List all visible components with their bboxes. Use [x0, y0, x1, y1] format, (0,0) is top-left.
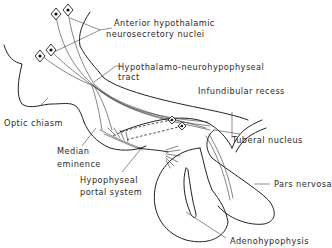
infundibular-stalk-upper [120, 118, 232, 148]
leader-adenohypophysis [186, 212, 226, 238]
portal-vessels [138, 148, 168, 152]
label-optic-chiasm: Optic chiasm [4, 118, 63, 128]
neuron-cluster-upper [51, 4, 73, 20]
label-anterior-nuclei-1: Anterior hypothalamic [114, 18, 215, 28]
label-median-eminence-2: eminence [57, 159, 101, 169]
label-portal-system-2: portal system [80, 187, 142, 197]
hypothalamus-pituitary-diagram: Anterior hypothalamic neurosecretory nuc… [0, 0, 332, 248]
leader-anterior-nuclei [54, 18, 112, 52]
label-portal-system-1: Hypophyseal [80, 175, 138, 185]
label-median-eminence-1: Median [57, 146, 89, 156]
adenohypophysis-cleft [184, 168, 196, 218]
label-tuberal-nucleus: Tuberal nucleus [231, 135, 303, 145]
tuberoinfundibular-fiber [112, 120, 172, 136]
label-anterior-nuclei-2: neurosecretory nuclei [106, 29, 205, 39]
label-tract-2: tract [118, 72, 140, 82]
leader-tuberal-nucleus [214, 130, 240, 134]
neuron-cluster-lower [35, 44, 56, 62]
label-adenohypophysis: Adenohypophysis [230, 236, 309, 246]
label-pars-nervosa: Pars nervosa [274, 179, 332, 189]
label-tract-1: Hypothalamo-neurohypophyseal [118, 62, 264, 72]
leader-portal-system [122, 150, 140, 172]
secondary-capillary-plexus [166, 146, 180, 168]
label-infundibular-recess: Infundibular recess [198, 86, 285, 96]
